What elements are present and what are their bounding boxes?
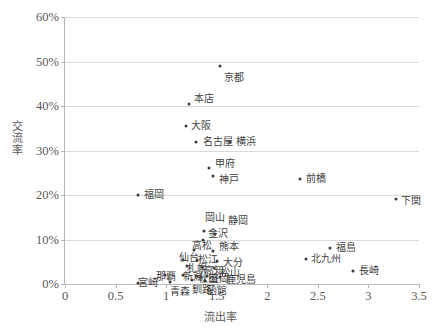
data-point [202, 230, 205, 233]
data-point [218, 276, 221, 279]
data-point [352, 269, 355, 272]
data-point-label: 前橋 [306, 174, 326, 184]
data-point [304, 257, 307, 260]
y-tick-mark [61, 62, 65, 63]
x-tick-mark [65, 284, 66, 288]
x-tick-label: 1 [163, 289, 169, 304]
y-tick-mark [61, 151, 65, 152]
data-point [218, 64, 221, 67]
data-point [211, 249, 214, 252]
gridline [65, 106, 419, 107]
x-tick-mark [166, 284, 167, 288]
data-point-label: 横浜 [236, 137, 256, 147]
x-tick-label: 2 [264, 289, 270, 304]
y-tick-label: 40% [36, 99, 59, 114]
gridline [65, 240, 419, 241]
x-tick-label: 0.5 [108, 289, 124, 304]
data-point [298, 178, 301, 181]
x-axis-title: 流出率 [0, 308, 440, 324]
data-point-label: 青森 [170, 287, 190, 297]
data-point-label: 静岡 [228, 216, 248, 226]
gridline [65, 195, 419, 196]
data-point-label: 大阪 [191, 121, 211, 131]
data-point-label: 甲府 [215, 159, 235, 169]
data-point [185, 125, 188, 128]
data-point-label: 函館 [207, 286, 227, 296]
data-point-label: 岡山 [205, 213, 225, 223]
y-tick-label: 10% [36, 232, 59, 247]
data-point [212, 267, 215, 270]
data-point [188, 102, 191, 105]
data-point [195, 140, 198, 143]
x-tick-mark [368, 284, 369, 288]
y-tick-label: 60% [36, 10, 59, 25]
x-tick-label: 3 [365, 289, 371, 304]
y-tick-mark [61, 106, 65, 107]
data-point-label: 下関 [401, 196, 421, 206]
clipped-top-text [230, 0, 430, 4]
data-point-label: 金沢 [208, 229, 228, 239]
y-tick-mark [61, 17, 65, 18]
data-point [136, 194, 139, 197]
data-point-label: 福岡 [144, 190, 164, 200]
x-tick-mark [267, 284, 268, 288]
data-point-label: 鹿児島 [226, 275, 256, 285]
data-point [191, 279, 194, 282]
data-point [207, 167, 210, 170]
x-tick-label: 0 [62, 289, 68, 304]
y-tick-label: 0% [42, 277, 59, 292]
y-axis-title: 交流率 [8, 120, 24, 156]
data-point-label: 熊本 [219, 242, 239, 252]
data-point-label: 北九州 [311, 254, 341, 264]
gridline [65, 151, 419, 152]
x-tick-mark [419, 284, 420, 288]
plot-area: 0%10%20%30%40%50%60% 00.511.522.533.5 京都… [64, 17, 419, 285]
x-tick-label: 2.5 [310, 289, 326, 304]
data-point-label: 京都 [224, 73, 244, 83]
x-tick-mark [116, 284, 117, 288]
y-tick-label: 30% [36, 143, 59, 158]
data-point-label: 神戸 [219, 175, 239, 185]
scatter-chart: 交流率 0%10%20%30%40%50%60% 00.511.522.533.… [0, 0, 440, 332]
data-point [169, 280, 172, 283]
data-point [211, 175, 214, 178]
data-point-label: 長崎 [359, 266, 379, 276]
data-point [215, 259, 218, 262]
data-point [394, 198, 397, 201]
gridline [65, 62, 419, 63]
data-point-label: 大分 [223, 258, 243, 268]
y-tick-label: 20% [36, 188, 59, 203]
x-tick-mark [318, 284, 319, 288]
y-tick-mark [61, 240, 65, 241]
y-tick-mark [61, 195, 65, 196]
y-tick-label: 50% [36, 54, 59, 69]
data-point [328, 247, 331, 250]
x-tick-label: 3.5 [411, 289, 427, 304]
data-point-label: 高松 [192, 241, 212, 251]
gridline [65, 17, 419, 18]
data-point-label: 宮崎 [138, 278, 158, 288]
data-point-label: 那覇 [156, 272, 176, 282]
data-point [203, 280, 206, 283]
data-point-label: 本店 [194, 94, 214, 104]
data-point [228, 140, 231, 143]
